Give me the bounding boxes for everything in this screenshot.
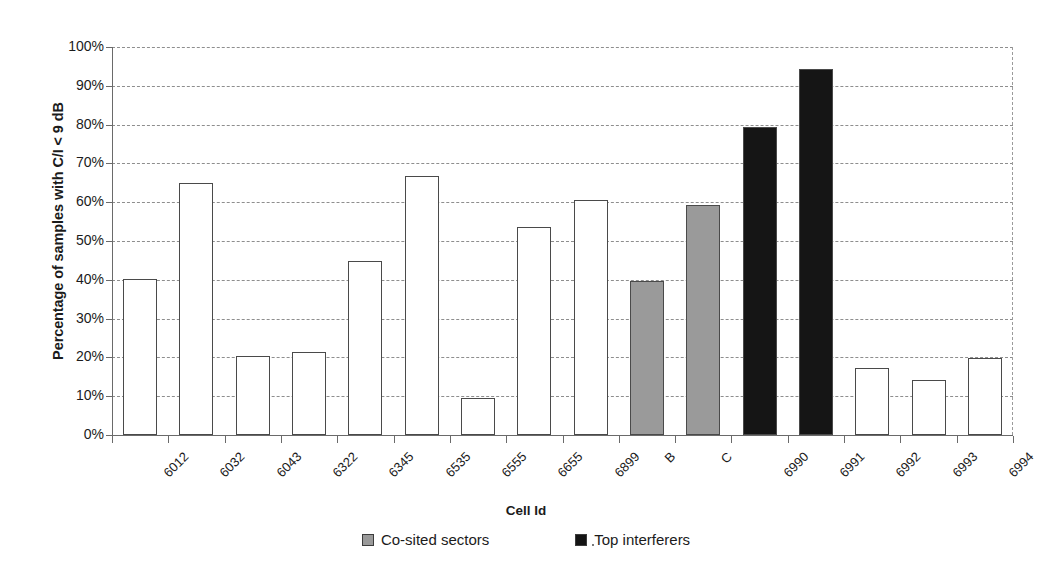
- plot-right-border: [1012, 47, 1013, 435]
- x-axis-tick-label: 6992: [893, 449, 924, 480]
- x-axis-title: Cell Id: [0, 503, 1052, 518]
- y-axis-tick-label: 20%: [0, 348, 104, 364]
- bar: [630, 281, 664, 435]
- x-axis-tick: [450, 436, 451, 443]
- y-axis-tick-label: 30%: [0, 310, 104, 326]
- x-axis-tick-label: 6012: [161, 449, 192, 480]
- bar: [236, 356, 270, 435]
- y-axis-tick-label: 100%: [0, 38, 104, 54]
- x-axis-tick: [957, 436, 958, 443]
- y-axis-tick: [106, 357, 113, 358]
- x-axis-tick-label: 6899: [611, 449, 642, 480]
- x-axis-tick: [337, 436, 338, 443]
- legend-label: Co-sited sectors: [381, 531, 489, 548]
- x-axis-tick-label: 6994: [1005, 449, 1036, 480]
- plot-area: [112, 47, 1013, 435]
- x-axis-tick: [788, 436, 789, 443]
- x-axis-tick: [619, 436, 620, 443]
- x-axis-tick-label: 6993: [949, 449, 980, 480]
- bar: [123, 279, 157, 435]
- x-axis-tick: [731, 436, 732, 443]
- x-axis-tick: [675, 436, 676, 443]
- y-axis-tick-labels: 0%10%20%30%40%50%60%70%80%90%100%: [0, 0, 104, 581]
- y-axis-tick: [106, 163, 113, 164]
- gridline: [112, 241, 1013, 242]
- y-axis-tick: [106, 86, 113, 87]
- bar: [461, 398, 495, 435]
- y-axis-tick-label: 70%: [0, 154, 104, 170]
- bar: [348, 261, 382, 435]
- x-axis-tick: [281, 436, 282, 443]
- x-axis-tick-label: 6345: [386, 449, 417, 480]
- chart-page: Percentage of samples with C/I < 9 dB 0%…: [0, 0, 1052, 581]
- x-axis-tick: [506, 436, 507, 443]
- x-axis-tick-label: 6555: [499, 449, 530, 480]
- y-axis-tick-label: 50%: [0, 232, 104, 248]
- x-axis-tick: [168, 436, 169, 443]
- x-axis-tick: [844, 436, 845, 443]
- y-axis-tick-label: 80%: [0, 116, 104, 132]
- x-axis-tick-label: B: [662, 449, 679, 466]
- legend-swatch-icon: [362, 534, 374, 546]
- y-axis-tick-label: 0%: [0, 426, 104, 442]
- y-axis-tick: [106, 47, 113, 48]
- y-axis-tick: [106, 319, 113, 320]
- bar: [517, 227, 551, 435]
- x-axis-tick: [394, 436, 395, 443]
- x-axis-tick-label: C: [718, 449, 735, 466]
- y-axis-tick: [106, 125, 113, 126]
- bar: [743, 127, 777, 435]
- x-axis-tick-label: 6990: [780, 449, 811, 480]
- bar: [686, 205, 720, 435]
- y-axis-tick-label: 10%: [0, 387, 104, 403]
- bar: [292, 352, 326, 435]
- chart-legend: Co-sited sectorsTop interferers: [0, 531, 1052, 548]
- x-axis-tick: [225, 436, 226, 443]
- x-axis-tick-label: 6991: [836, 449, 867, 480]
- legend-label: Top interferers: [594, 531, 690, 548]
- legend-item: Top interferers: [575, 531, 690, 548]
- y-axis-tick-label: 40%: [0, 271, 104, 287]
- gridline: [112, 163, 1013, 164]
- legend-swatch-icon: [575, 534, 587, 546]
- gridline: [112, 202, 1013, 203]
- y-axis-tick: [106, 241, 113, 242]
- y-axis-tick: [106, 396, 113, 397]
- bar: [574, 200, 608, 435]
- y-axis-tick-label: 90%: [0, 77, 104, 93]
- x-axis-tick-label: 6535: [442, 449, 473, 480]
- bar: [799, 69, 833, 435]
- bar: [179, 183, 213, 435]
- x-axis-tick-label: 6032: [217, 449, 248, 480]
- x-axis-tick: [900, 436, 901, 443]
- x-axis-tick-label: 6655: [555, 449, 586, 480]
- bar: [968, 358, 1002, 435]
- y-axis-tick-label: 60%: [0, 193, 104, 209]
- y-axis-tick: [106, 202, 113, 203]
- x-axis-tick: [1013, 436, 1014, 443]
- x-axis-tick: [112, 436, 113, 443]
- gridline: [112, 125, 1013, 126]
- x-axis-tick-label: 6322: [330, 449, 361, 480]
- legend-item: Co-sited sectors: [362, 531, 489, 548]
- gridline: [112, 86, 1013, 87]
- y-axis-tick: [106, 280, 113, 281]
- x-axis-tick: [563, 436, 564, 443]
- bar: [912, 380, 946, 435]
- x-axis-tick-label: 6043: [273, 449, 304, 480]
- gridline: [112, 47, 1013, 48]
- bar: [855, 368, 889, 435]
- bar: [405, 176, 439, 435]
- gridline: [112, 319, 1013, 320]
- gridline: [112, 280, 1013, 281]
